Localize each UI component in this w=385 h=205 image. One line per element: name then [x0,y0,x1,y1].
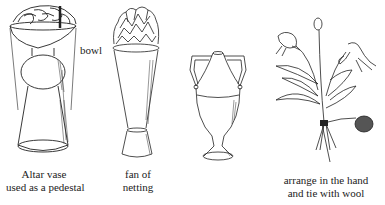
illustration-page: bowl Altar vase used as a pedestal fan o… [0,0,385,205]
hand-bouquet-caption: arrange in the hand and tie with wool [276,174,376,200]
caption-line: arrange in the hand [276,174,376,187]
caption-line: and tie with wool [276,187,376,200]
